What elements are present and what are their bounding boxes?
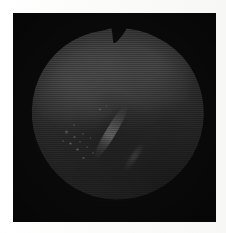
image-plate [13,13,216,222]
exudate-spot [82,157,84,159]
exudate-spot [82,133,84,135]
exudate-spot [65,130,68,133]
exudate-spot [76,148,79,151]
exudate-spot [73,124,75,126]
exudate-spot [69,142,72,145]
fundus-disc-clip [28,28,204,207]
figure-container [0,0,226,233]
exudate-spot [106,105,108,107]
exudate-spot [79,141,81,143]
exudate-spot [99,108,101,110]
exudate-spot [86,146,88,148]
